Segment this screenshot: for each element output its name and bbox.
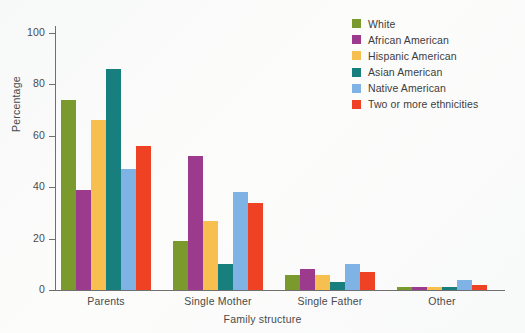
bar[interactable] <box>315 275 330 290</box>
chart-legend: WhiteAfrican AmericanHispanic AmericanAs… <box>352 17 478 111</box>
y-tick-mark <box>49 84 55 85</box>
y-tick-mark <box>49 290 55 291</box>
y-tick-label: 40 <box>5 180 45 192</box>
legend-item[interactable]: Native American <box>352 82 478 95</box>
legend-color-swatch <box>352 68 361 77</box>
y-tick-label: 20 <box>5 232 45 244</box>
legend-label: Two or more ethnicities <box>368 98 478 110</box>
bar[interactable] <box>91 120 106 290</box>
legend-label: African American <box>368 34 449 46</box>
legend-item[interactable]: African American <box>352 33 478 46</box>
bar[interactable] <box>300 269 315 290</box>
bar[interactable] <box>397 287 412 290</box>
bar-group <box>61 33 151 290</box>
bar[interactable] <box>203 221 218 290</box>
x-category-label: Single Father <box>270 295 390 307</box>
bar[interactable] <box>218 264 233 290</box>
y-tick-mark <box>49 33 55 34</box>
y-tick-mark <box>49 187 55 188</box>
bar[interactable] <box>121 169 136 290</box>
y-axis-title: Percentage <box>10 76 22 132</box>
bar-group <box>173 33 263 290</box>
x-category-label: Other <box>382 295 502 307</box>
legend-color-swatch <box>352 19 361 28</box>
x-category-label: Single Mother <box>158 295 278 307</box>
bar[interactable] <box>233 192 248 290</box>
legend-label: Hispanic American <box>368 50 457 62</box>
y-tick-label: 0 <box>5 283 45 295</box>
bar[interactable] <box>457 280 472 290</box>
y-tick-mark <box>49 136 55 137</box>
legend-item[interactable]: White <box>352 17 478 30</box>
legend-label: Asian American <box>368 66 442 78</box>
bar[interactable] <box>285 275 300 290</box>
bar[interactable] <box>330 282 345 290</box>
legend-color-swatch <box>352 51 361 60</box>
legend-label: Native American <box>368 82 446 94</box>
bar[interactable] <box>360 272 375 290</box>
bar[interactable] <box>442 287 457 290</box>
bar[interactable] <box>427 287 442 290</box>
y-tick-mark <box>49 239 55 240</box>
legend-item[interactable]: Asian American <box>352 66 478 79</box>
legend-color-swatch <box>352 35 361 44</box>
x-axis-title: Family structure <box>0 313 525 325</box>
bar[interactable] <box>61 100 76 290</box>
legend-label: White <box>368 18 395 30</box>
legend-item[interactable]: Two or more ethnicities <box>352 98 478 111</box>
bar[interactable] <box>106 69 121 290</box>
legend-color-swatch <box>352 84 361 93</box>
bar[interactable] <box>472 285 487 290</box>
bar[interactable] <box>173 241 188 290</box>
x-category-label: Parents <box>46 295 166 307</box>
bar[interactable] <box>188 156 203 290</box>
bar[interactable] <box>412 287 427 290</box>
legend-color-swatch <box>352 100 361 109</box>
bar[interactable] <box>76 190 91 290</box>
x-axis-line <box>55 290 505 291</box>
bar-chart-figure: 020406080100 Percentage Family structure… <box>0 0 525 333</box>
bar[interactable] <box>136 146 151 290</box>
bar[interactable] <box>248 203 263 290</box>
legend-item[interactable]: Hispanic American <box>352 49 478 62</box>
y-tick-label: 100 <box>5 26 45 38</box>
bar[interactable] <box>345 264 360 290</box>
